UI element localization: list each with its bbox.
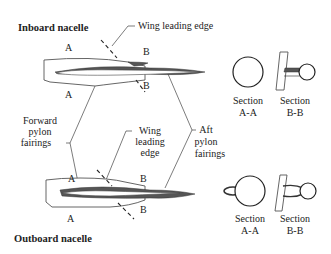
- inboard-marker-b-top: B: [143, 46, 150, 57]
- outboard-section-bb-wing: [275, 175, 287, 211]
- forward-pylon-label-line1: Forward: [23, 115, 57, 126]
- outboard-nacelle-group: Wing leading edge A A B B Outboard nacel…: [14, 125, 316, 244]
- forward-pylon-label-line2: pylon: [29, 126, 52, 137]
- inboard-section-bb-circle: [299, 64, 315, 80]
- inboard-section-bb-pylon: [284, 68, 300, 72]
- outboard-marker-a-bottom: A: [67, 213, 75, 224]
- inboard-marker-b-bottom: B: [143, 80, 150, 91]
- aft-pylon-label-line2: pylon: [195, 136, 218, 147]
- outboard-section-aa-label-line2: A-A: [241, 225, 260, 236]
- outboard-wing-leader-line: [106, 131, 132, 180]
- outboard-section-aa-label-line1: Section: [235, 213, 265, 224]
- inboard-section-aa-circle: [233, 57, 263, 87]
- inboard-wing-leading-edge-label: Wing leading edge: [138, 20, 214, 31]
- nacelle-pylon-diagram: Inboard nacelle Wing leading edge A A B …: [0, 0, 331, 254]
- outboard-nacelle-title: Outboard nacelle: [14, 233, 92, 244]
- outboard-section-bb-circle: [300, 183, 316, 199]
- outboard-marker-b-top: B: [140, 173, 147, 184]
- inboard-nacelle-group: Inboard nacelle Wing leading edge A A B …: [18, 20, 315, 118]
- inboard-section-aa-label-line2: A-A: [239, 107, 258, 118]
- outboard-marker-a-top: A: [68, 173, 76, 184]
- inboard-section-bb-label-line2: B-B: [287, 107, 304, 118]
- outboard-wing-label-line2: leading: [135, 136, 164, 147]
- outboard-wing-label-line1: Wing: [139, 125, 161, 136]
- inboard-section-aa-label-line1: Section: [233, 95, 263, 106]
- outboard-marker-b-bottom: B: [140, 204, 147, 215]
- aft-pylon-leader-line: [165, 74, 192, 188]
- inboard-marker-a-top: A: [65, 42, 73, 53]
- forward-pylon-label-line3: fairings: [21, 137, 52, 148]
- inboard-section-bb-label-line1: Section: [280, 95, 310, 106]
- inboard-wing-leader-line: [112, 26, 135, 46]
- outboard-wing-label-line3: edge: [141, 147, 160, 158]
- aft-pylon-label-line3: fairings: [195, 148, 226, 159]
- outboard-section-bb-label-line2: B-B: [287, 225, 304, 236]
- inboard-marker-a-bottom: A: [65, 89, 73, 100]
- outboard-section-aa-circle: [235, 176, 265, 206]
- outboard-section-bb-label-line1: Section: [280, 213, 310, 224]
- inboard-nacelle-title: Inboard nacelle: [18, 22, 89, 33]
- aft-pylon-label-line1: Aft: [199, 124, 213, 135]
